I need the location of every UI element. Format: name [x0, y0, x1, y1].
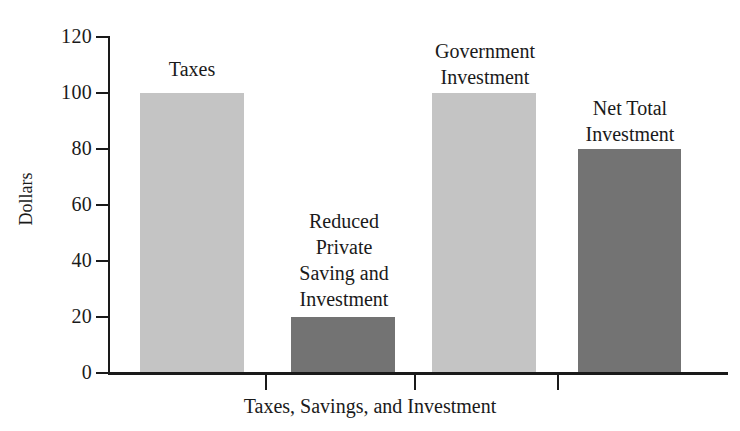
x-axis-line	[108, 372, 728, 375]
x-axis-tick	[265, 375, 267, 390]
y-axis-tick	[96, 260, 110, 262]
y-axis-tick-label: 0	[32, 362, 92, 382]
bar	[432, 93, 536, 373]
y-axis-tick	[96, 92, 110, 94]
x-axis-tick	[414, 375, 416, 390]
y-axis-tick-label: 40	[32, 250, 92, 270]
y-axis-tick-label: 120	[32, 26, 92, 46]
y-axis-tick-label: 100	[32, 82, 92, 102]
bar	[291, 317, 395, 373]
y-axis-tick	[96, 204, 110, 206]
bar-label: Reduced Private Saving and Investment	[262, 208, 426, 312]
y-axis-tick-label-text: 0	[36, 362, 92, 382]
bar-label: Taxes	[110, 56, 274, 82]
bar-label: Government Investment	[400, 38, 570, 90]
y-axis-tick-label-text: 120	[36, 26, 92, 46]
y-axis-tick-label-text: 100	[36, 82, 92, 102]
y-axis-title: Dollars	[17, 139, 35, 259]
x-axis-tick	[557, 375, 559, 390]
y-axis-tick	[96, 148, 110, 150]
bar-chart: 120100806040200 Dollars TaxesReduced Pri…	[0, 0, 740, 431]
x-axis-title: Taxes, Savings, and Investment	[0, 394, 740, 418]
y-axis-tick	[96, 36, 110, 38]
y-axis-tick-label-text: 80	[36, 138, 92, 158]
y-axis-tick-label: 60	[32, 194, 92, 214]
bar-label: Net Total Investment	[548, 95, 712, 147]
y-axis-tick-label: 80	[32, 138, 92, 158]
y-axis-tick-label: 20	[32, 306, 92, 326]
y-axis-tick	[96, 316, 110, 318]
y-axis-tick-label-text: 20	[36, 306, 92, 326]
y-axis-tick-label-text: 40	[36, 250, 92, 270]
y-axis-tick-label-text: 60	[36, 194, 92, 214]
bar	[140, 93, 244, 373]
bar	[578, 149, 681, 373]
